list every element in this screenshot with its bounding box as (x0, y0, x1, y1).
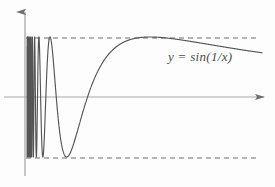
curve-equation-label: y = sin(1/x) (168, 49, 232, 65)
sinx-plot-figure: y = sin(1/x) (0, 0, 275, 187)
plot-canvas (0, 0, 275, 187)
